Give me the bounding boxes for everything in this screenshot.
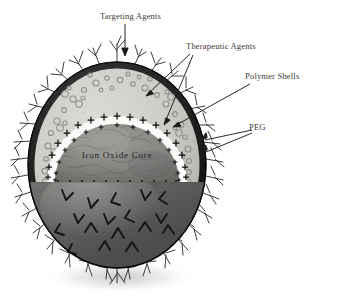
- nanoparticle-svg: Iron Oxide Core: [0, 0, 337, 298]
- nanoparticle-diagram: Iron Oxide Core Targeting Agents Therape…: [0, 0, 337, 298]
- label-targeting-agents: Targeting Agents: [100, 12, 161, 21]
- label-peg: PEG: [249, 123, 266, 132]
- label-therapeutic-agents: Therapeutic Agents: [186, 42, 256, 51]
- leader-peg: [200, 130, 252, 154]
- iron-oxide-core-label: Iron Oxide Core: [82, 150, 153, 160]
- label-polymer-shells: Polymer Shells: [245, 72, 299, 81]
- leader-targeting-agents: [122, 24, 128, 56]
